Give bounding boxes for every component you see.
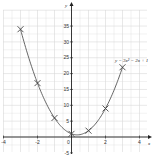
y-tick-label: 10 [63,102,69,108]
x-tick-label: -4 [1,139,6,145]
y-tick-label: 15 [63,86,69,92]
y-tick-label: 30 [63,39,69,45]
y-tick-label: 35 [63,23,69,29]
grid-lines [3,10,147,152]
y-tick-label: 20 [63,70,69,76]
x-tick-label: -2 [35,139,40,145]
y-tick-label: 5 [66,118,69,124]
x-tick-label: 0 [67,139,70,145]
x-tick-label: 2 [104,139,107,145]
graph-chart: -4-2024-55101520253035 y = 3x² − 2x + 1 … [0,0,154,157]
axes [3,2,152,154]
x-tick-label: 4 [138,139,141,145]
y-axis-arrow-icon [70,2,74,6]
x-axis-label: x [147,141,151,146]
y-axis-label: y [64,3,68,8]
equation-label: y = 3x² − 2x + 1 [114,58,148,63]
x-axis-arrow-icon [148,135,152,139]
y-tick-label: -5 [65,150,70,156]
y-tick-label: 25 [63,54,69,60]
